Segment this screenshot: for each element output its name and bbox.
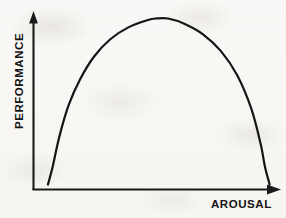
y-axis-arrow-icon bbox=[29, 11, 38, 24]
figure-canvas: PERFORMANCE AROUSAL bbox=[0, 0, 286, 218]
y-axis-label: PERFORMANCE bbox=[14, 115, 160, 129]
plot-area bbox=[0, 0, 286, 218]
performance-curve bbox=[48, 18, 270, 185]
x-axis-arrow-icon bbox=[267, 185, 281, 195]
x-axis-label: AROUSAL bbox=[211, 199, 272, 211]
